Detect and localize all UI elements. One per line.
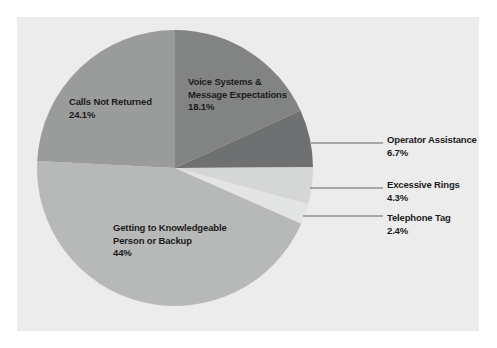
leader-lines	[303, 143, 383, 216]
pie-slices	[37, 30, 313, 306]
slice-label-getting-to-knowledgeable-person-value: 44%	[113, 247, 227, 260]
slice-label-voice-systems: Voice Systems & Message Expectations 18.…	[188, 76, 287, 114]
callout-label-operator-assistance: Operator Assistance 6.7%	[387, 134, 477, 159]
slice-label-calls-not-returned-value: 24.1%	[69, 109, 152, 122]
slice-label-calls-not-returned-line1: Calls Not Returned	[69, 96, 152, 109]
callout-label-telephone-tag: Telephone Tag 2.4%	[387, 212, 451, 237]
callout-label-operator-assistance-line1: Operator Assistance	[387, 134, 477, 147]
chart-screenshot: Calls Not Returned 24.1% Voice Systems &…	[0, 0, 497, 348]
callout-label-telephone-tag-line1: Telephone Tag	[387, 212, 451, 225]
slice-label-getting-to-knowledgeable-person-line2: Person or Backup	[113, 235, 227, 248]
slice-label-getting-to-knowledgeable-person-line1: Getting to Knowledgeable	[113, 222, 227, 235]
callout-label-operator-assistance-value: 6.7%	[387, 147, 477, 160]
slice-label-calls-not-returned: Calls Not Returned 24.1%	[69, 96, 152, 121]
callout-label-telephone-tag-value: 2.4%	[387, 225, 451, 238]
callout-label-excessive-rings-line1: Excessive Rings	[387, 179, 460, 192]
callout-label-excessive-rings: Excessive Rings 4.3%	[387, 179, 460, 204]
callout-label-excessive-rings-value: 4.3%	[387, 192, 460, 205]
slice-label-voice-systems-line1: Voice Systems &	[188, 76, 287, 89]
slice-label-voice-systems-line2: Message Expectations	[188, 89, 287, 102]
slice-label-voice-systems-value: 18.1%	[188, 101, 287, 114]
slice-label-getting-to-knowledgeable-person: Getting to Knowledgeable Person or Backu…	[113, 222, 227, 260]
pie-chart-graphic	[0, 0, 497, 348]
